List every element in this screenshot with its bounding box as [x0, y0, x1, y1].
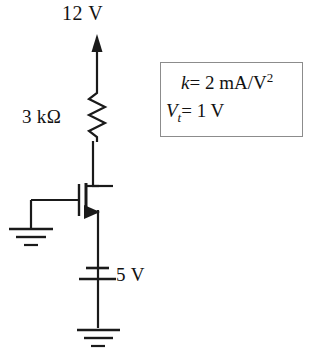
resistor-value-label: 3 kΩ — [22, 106, 61, 128]
circuit-diagram-screenshot: 12 V 3 kΩ 5 V k= 2 mA/V2 Vt= 1 V — [0, 0, 315, 364]
parameter-k-exponent: 2 — [267, 70, 274, 85]
circuit-schematic — [0, 0, 315, 364]
nmos-transistor-symbol — [31, 183, 100, 219]
parameter-vt-line: Vt= 1 V — [166, 100, 224, 126]
parameter-box: k= 2 mA/V2 Vt= 1 V — [160, 62, 303, 137]
gate-ground-symbol — [9, 200, 53, 245]
bottom-ground-symbol — [77, 330, 120, 346]
battery-voltage-label: 5 V — [116, 264, 145, 286]
parameter-vt-symbol: V — [166, 100, 178, 121]
source-battery-symbol — [79, 268, 116, 328]
parameter-vt-value: = 1 V — [181, 100, 224, 121]
drain-wire — [92, 141, 113, 187]
supply-voltage-label: 12 V — [62, 2, 103, 25]
parameter-k-line: k= 2 mA/V2 — [181, 70, 273, 94]
parameter-k-value: = 2 mA/V — [189, 72, 266, 93]
drain-resistor-symbol — [89, 90, 105, 142]
supply-arrow-icon — [92, 34, 103, 90]
